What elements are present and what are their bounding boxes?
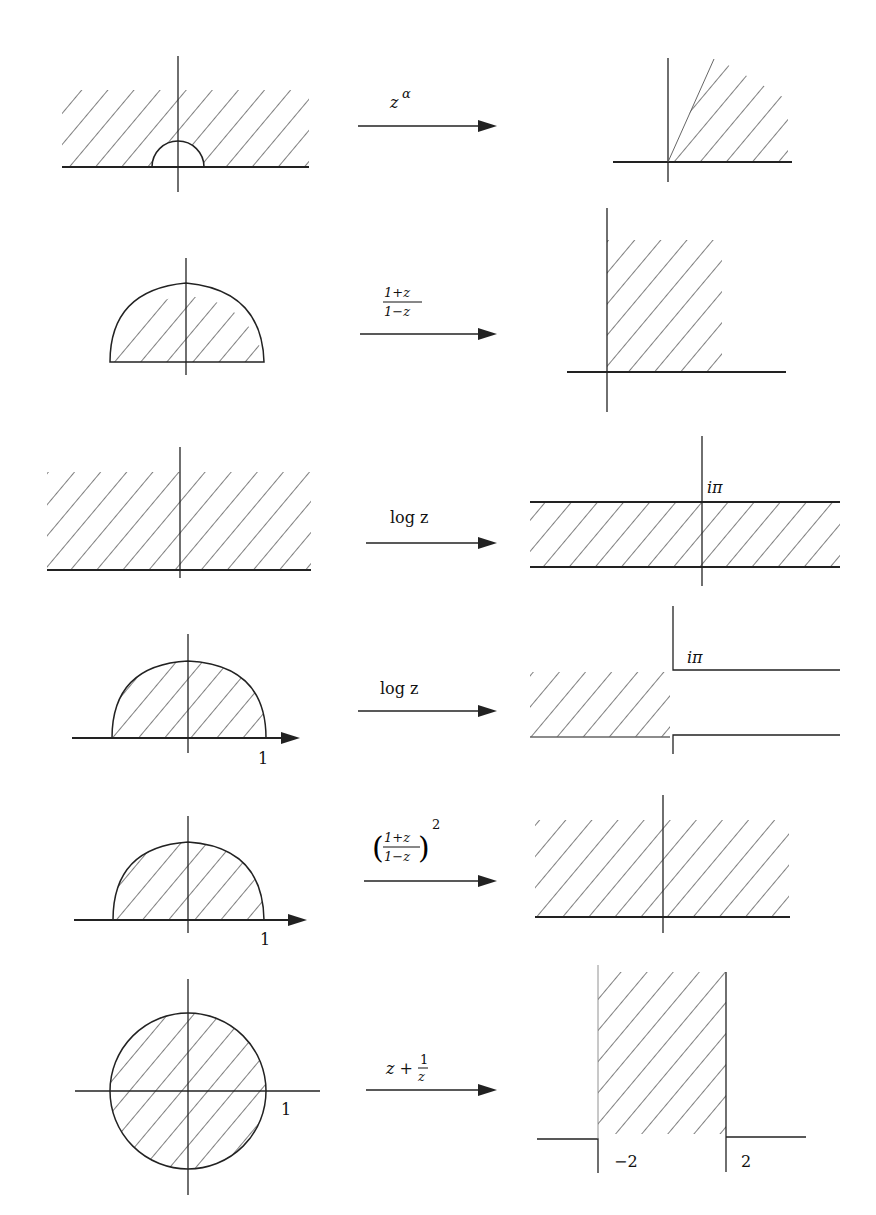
row-mobius-squared: 1 ( 1+z 1−z ) 2 — [74, 795, 790, 949]
map-label: z + — [385, 1059, 413, 1078]
left-paren-glyph: ( — [372, 830, 384, 865]
slit-label-right: 2 — [741, 1152, 751, 1171]
domain-upper-half-disk — [110, 258, 264, 375]
image-upper-half-plane — [535, 795, 790, 933]
map-numerator: 1+z — [384, 830, 410, 845]
image-wedge — [613, 58, 792, 182]
map-arrow: 1+z 1−z — [360, 285, 497, 340]
image-horizontal-strip: iπ — [530, 436, 840, 586]
map-denominator: z — [417, 1069, 425, 1084]
slit-label-left: −2 — [614, 1152, 638, 1171]
unit-label: 1 — [258, 749, 268, 768]
map-denominator: 1−z — [384, 849, 410, 864]
domain-upper-half-disk: 1 — [74, 816, 307, 949]
map-numerator: 1 — [420, 1052, 428, 1067]
right-paren-glyph: ) — [418, 830, 430, 865]
row-joukowski: 1 z + 1 z −2 2 — [75, 965, 806, 1195]
row-z-alpha: z α — [62, 56, 792, 192]
row-log-halfdisk: 1 log z iπ — [72, 606, 840, 768]
image-half-strip: iπ — [530, 606, 840, 754]
domain-upper-half-plane-minus-halfdisk — [62, 56, 309, 192]
row-log-halfplane: log z iπ — [47, 436, 840, 586]
map-label: z — [389, 93, 399, 112]
unit-label: 1 — [260, 930, 270, 949]
image-first-quadrant — [567, 208, 786, 412]
mapping-figure: z α 1+z 1−z — [0, 0, 876, 1215]
row-mobius: 1+z 1−z — [110, 208, 786, 412]
domain-upper-half-plane — [47, 447, 311, 578]
map-arrow: z α — [358, 86, 497, 132]
domain-unit-disk: 1 — [75, 979, 320, 1195]
strip-top-label: iπ — [707, 478, 723, 497]
map-numerator: 1+z — [384, 285, 410, 300]
image-slit-plane: −2 2 — [537, 965, 806, 1173]
map-arrow: ( 1+z 1−z ) 2 — [364, 817, 497, 887]
map-arrow: log z — [358, 679, 497, 717]
map-label: log z — [390, 508, 429, 527]
map-arrow: log z — [366, 508, 497, 549]
map-label-exponent: 2 — [432, 817, 440, 832]
map-denominator: 1−z — [384, 304, 410, 319]
map-label-exponent: α — [402, 86, 411, 101]
map-label: log z — [380, 679, 419, 698]
strip-top-label: iπ — [687, 648, 703, 667]
unit-label: 1 — [281, 1100, 291, 1119]
map-arrow: z + 1 z — [366, 1052, 497, 1096]
domain-upper-half-disk: 1 — [72, 634, 300, 768]
